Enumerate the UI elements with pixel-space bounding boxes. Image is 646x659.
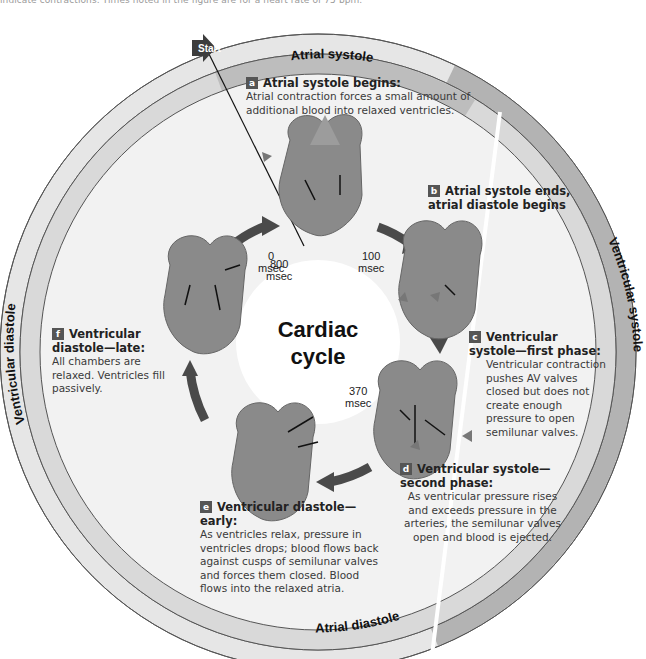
step-badge: f [52,328,64,340]
heart-icon-b [399,221,482,339]
step-body: As ventricles relax, pressure in ventric… [200,528,380,596]
step-body: All chambers are relaxed. Ventricles fil… [52,355,182,396]
step-badge: a [246,77,258,89]
start-label: Start [198,43,221,54]
step-title: Atrial systole begins: [263,76,401,90]
step-b: bAtrial systole ends, atrial diastole be… [428,184,573,212]
time-value: 800 [266,258,292,270]
time-value: 370 [345,385,371,397]
center-title-line1: Cardiac [258,316,378,343]
time-unit: msec [266,270,292,282]
step-body: As ventricular pressure rises and exceed… [400,490,565,544]
time-value: 100 [358,250,384,262]
time-370: 370 msec [345,385,371,409]
center-title: Cardiac cycle [258,316,378,370]
time-800: 800 msec [266,258,292,282]
step-f: fVentricular diastole—late: All chambers… [52,327,182,396]
step-badge: c [469,331,481,343]
center-title-line2: cycle [258,343,378,370]
step-badge: e [200,501,212,513]
step-badge: d [400,463,412,475]
step-body: Ventricular contraction pushes AV valves… [486,358,606,439]
step-title: Ventricular diastole—late: [52,327,145,355]
heart-icon-a [279,115,362,236]
step-badge: b [428,185,440,197]
time-100: 100 msec [358,250,384,274]
step-title: Atrial systole ends, atrial diastole beg… [428,184,570,212]
step-body: Atrial contraction forces a small amount… [246,90,476,117]
time-unit: msec [345,397,371,409]
time-unit: msec [358,262,384,274]
step-title: Ventricular diastole—early: [200,500,356,528]
step-c: cVentricular systole—first phase: Ventri… [486,330,606,439]
step-title: Ventricular systole—first phase: [469,330,601,358]
step-title: Ventricular systole—second phase: [400,462,551,490]
step-d: dVentricular systole—second phase: As ve… [400,462,565,544]
step-e: eVentricular diastole—early: As ventricl… [200,500,380,596]
step-a: aAtrial systole begins: Atrial contracti… [246,76,476,117]
